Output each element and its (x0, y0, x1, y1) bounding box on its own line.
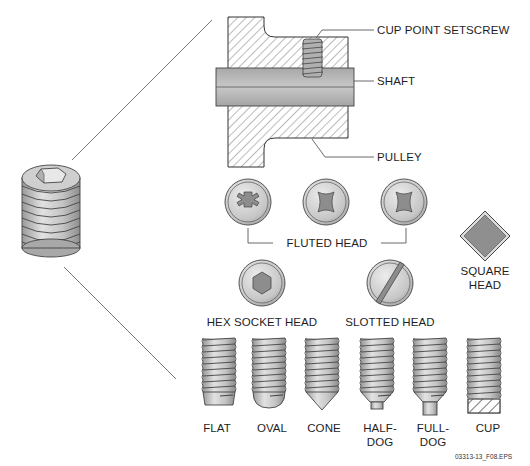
zoom-leader-lines (64, 20, 212, 379)
hex-socket-head (239, 260, 285, 306)
point-cone (305, 338, 339, 410)
label-pulley: PULLEY (377, 150, 422, 164)
point-half-dog (360, 338, 394, 409)
point-cup (467, 338, 501, 413)
label-point-oval: OVAL (257, 421, 287, 435)
label-slotted-head: SLOTTED HEAD (345, 315, 434, 329)
point-oval (252, 338, 286, 408)
label-hex-socket-head: HEX SOCKET HEAD (207, 315, 318, 329)
label-point-cone: CONE (307, 421, 341, 435)
label-fluted-head: FLUTED HEAD (287, 236, 368, 250)
figure-caption: 03313-13_F08.EPS (455, 453, 512, 460)
fluted-head-6-spline (225, 179, 271, 225)
label-square-head-line1: SQUARE (460, 264, 509, 278)
label-point-cup: CUP (476, 421, 501, 435)
label-point-half-dog-line1: HALF- (363, 421, 397, 435)
diagram-artwork (0, 0, 530, 466)
shaft (216, 68, 354, 106)
label-point-full-dog-line2: DOG (420, 435, 447, 449)
slotted-head (367, 260, 413, 306)
square-head (460, 211, 510, 261)
label-point-half-dog-line2: DOG (367, 435, 394, 449)
fluted-head-4-spline-b (381, 179, 427, 225)
label-point-full-dog-line1: FULL- (417, 421, 449, 435)
fluted-head-4-spline-a (303, 179, 349, 225)
point-flat (202, 338, 236, 405)
cup-point-setscrew-in-pulley (302, 39, 323, 77)
setscrew-isometric (22, 165, 80, 257)
label-shaft: SHAFT (377, 74, 415, 88)
label-point-flat: FLAT (203, 421, 231, 435)
setscrew-diagram: CUP POINT SETSCREW SHAFT PULLEY FLUTED H… (0, 0, 530, 466)
label-cup-point-setscrew: CUP POINT SETSCREW (377, 23, 509, 37)
point-full-dog (413, 338, 447, 415)
label-square-head-line2: HEAD (469, 278, 501, 292)
